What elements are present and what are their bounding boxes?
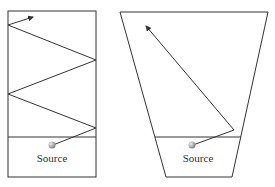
zigzag-ray bbox=[8, 17, 96, 145]
tapered-pipe-diagram: Source bbox=[120, 12, 268, 177]
source-ball-icon bbox=[189, 142, 196, 149]
source-label-left: Source bbox=[37, 152, 68, 164]
rectangular-pipe-diagram: Source bbox=[8, 11, 96, 177]
diagram-canvas: Source Source bbox=[0, 0, 275, 187]
source-label-right: Source bbox=[183, 152, 214, 164]
reflected-ray bbox=[146, 26, 234, 145]
source-ball-icon bbox=[49, 142, 56, 149]
